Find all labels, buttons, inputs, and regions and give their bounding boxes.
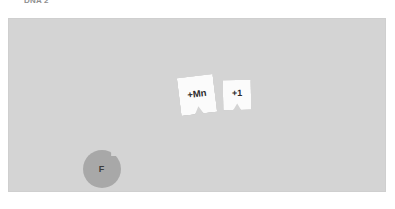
card-token-mn-label: +Mn [187,88,207,100]
card-token-mn[interactable]: +Mn [177,74,217,116]
canvas-panel[interactable]: +Mn +1 F [8,18,386,192]
card-token-plus-one-label: +1 [232,89,242,98]
circle-token-f-label: F [99,165,105,174]
card-token-plus-one[interactable]: +1 [223,80,252,110]
header-label: DNA 2 [24,0,49,6]
circle-token-f[interactable]: F [83,150,121,188]
